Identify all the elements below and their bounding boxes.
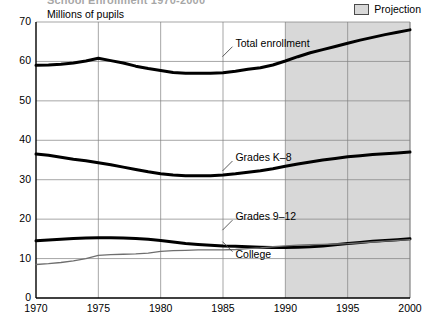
series-annotation-label: Grades K–8 bbox=[235, 151, 291, 163]
y-axis-tick-label: 40 bbox=[5, 133, 31, 145]
y-axis-tick-label: 50 bbox=[5, 94, 31, 106]
y-axis-tick-label: 70 bbox=[5, 15, 31, 27]
x-axis-tick-label: 1970 bbox=[16, 302, 56, 314]
series-annotation-label: Total enrollment bbox=[235, 37, 309, 49]
x-axis-tick-label: 1995 bbox=[328, 302, 368, 314]
chart-figure: School Enrollment 1970-2000 Millions of … bbox=[0, 0, 427, 321]
x-axis-tick-label: 1975 bbox=[78, 302, 118, 314]
plot-canvas bbox=[0, 0, 427, 321]
y-axis-tick-label: 20 bbox=[5, 212, 31, 224]
series-annotation-label: College bbox=[235, 248, 271, 260]
y-axis-tick-label: 60 bbox=[5, 54, 31, 66]
x-axis-tick-label: 1990 bbox=[265, 302, 305, 314]
series-annotation-label: Grades 9–12 bbox=[235, 210, 296, 222]
x-axis-tick-label: 2000 bbox=[390, 302, 427, 314]
x-axis-tick-label: 1980 bbox=[141, 302, 181, 314]
x-axis-tick-label: 1985 bbox=[203, 302, 243, 314]
y-axis-tick-label: 10 bbox=[5, 252, 31, 264]
y-axis-tick-label: 30 bbox=[5, 173, 31, 185]
